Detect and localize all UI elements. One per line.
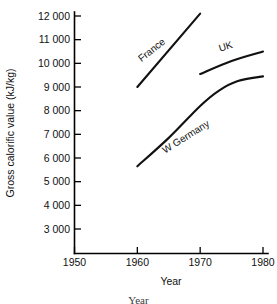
x-tick-label: 1950 <box>63 256 87 268</box>
y-tick-label: 3 000 <box>44 223 70 235</box>
y-tick-label: 5 000 <box>44 175 70 187</box>
y-tick-label: 12 000 <box>38 10 70 22</box>
y-tick-label: 7 000 <box>44 128 70 140</box>
series-labels: FranceUKW Germany <box>136 36 234 156</box>
y-tick-label: 6 000 <box>44 152 70 164</box>
figure: 3 0004 0005 0006 0007 0008 0009 00010 00… <box>0 0 277 304</box>
y-axis-title: Gross calorific value (kJ/kg) <box>4 69 16 198</box>
figure-caption: Year <box>0 294 277 304</box>
series-label-w-germany: W Germany <box>160 118 211 156</box>
series-label-france: France <box>136 36 168 64</box>
y-tick-label: 10 000 <box>38 57 70 69</box>
x-tick-label: 1960 <box>126 256 150 268</box>
y-tick-label: 11 000 <box>39 33 70 45</box>
y-tick-label: 4 000 <box>44 199 70 211</box>
y-axis-tick-labels: 3 0004 0005 0006 0007 0008 0009 00010 00… <box>38 10 70 235</box>
x-axis-title: Year <box>160 275 182 287</box>
x-axis-ticks <box>75 247 264 254</box>
x-tick-label: 1980 <box>251 256 275 268</box>
line-chart: 3 0004 0005 0006 0007 0008 0009 00010 00… <box>0 0 277 304</box>
y-tick-label: 8 000 <box>44 104 70 116</box>
series-lines <box>137 14 263 167</box>
series-label-uk: UK <box>217 39 234 54</box>
x-tick-label: 1970 <box>188 256 212 268</box>
y-tick-label: 9 000 <box>44 81 70 93</box>
y-axis-ticks <box>75 16 82 229</box>
x-axis-tick-labels: 1950196019701980 <box>63 256 275 268</box>
series-line-uk <box>200 52 263 74</box>
